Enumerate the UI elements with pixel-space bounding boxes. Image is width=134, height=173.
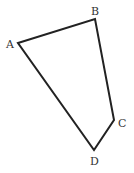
quadrilateral-diagram: A B C D bbox=[0, 0, 134, 173]
vertex-label-b: B bbox=[91, 5, 99, 18]
vertex-label-a: A bbox=[5, 38, 15, 51]
vertex-label-d: D bbox=[90, 155, 99, 168]
vertex-label-c: C bbox=[118, 117, 126, 130]
quadrilateral-abcd bbox=[18, 19, 114, 150]
